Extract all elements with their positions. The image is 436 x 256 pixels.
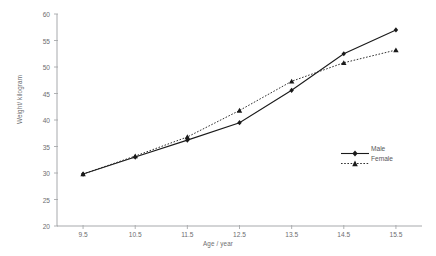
x-axis-tick-label: 15.5 [390, 231, 403, 238]
legend-label-male: Male [371, 145, 385, 152]
data-point-male [237, 120, 241, 125]
y-axis-tick-label: 20 [22, 223, 50, 230]
x-axis-tick-label: 13.5 [285, 231, 298, 238]
x-axis-title: Age / year [0, 240, 436, 247]
weight-vs-age-line-chart: 605550454035302520 9.510.511.512.513.514… [0, 0, 436, 256]
data-point-male [342, 51, 346, 56]
x-axis-tick-label: 10.5 [129, 231, 142, 238]
data-point-male [289, 88, 293, 93]
plot-area [0, 0, 436, 256]
legend-label-female: Female [371, 155, 393, 162]
data-point-female [393, 47, 398, 52]
caption-strip [6, 250, 306, 256]
y-axis-tick-label: 30 [22, 170, 50, 177]
y-axis-tick-label: 60 [22, 11, 50, 18]
x-axis-tick-label: 14.5 [337, 231, 350, 238]
legend-item-female[interactable]: Female [340, 153, 393, 163]
chart-legend: Male Female [340, 143, 426, 168]
legend-swatch-female-icon [340, 154, 370, 163]
data-point-female [289, 79, 294, 84]
y-axis-title: Weight/ kilogram [16, 45, 23, 155]
x-axis-tick-label: 12.5 [233, 231, 246, 238]
y-axis-tick-label: 45 [22, 90, 50, 97]
y-axis-tick-label: 35 [22, 143, 50, 150]
data-point-female [237, 108, 242, 113]
y-axis-tick-label: 50 [22, 64, 50, 71]
data-point-male [133, 155, 137, 160]
legend-item-male[interactable]: Male [340, 143, 385, 153]
y-axis-tick-label: 25 [22, 196, 50, 203]
x-axis-tick-label: 11.5 [181, 231, 193, 238]
x-axis-tick-label: 9.5 [78, 231, 87, 238]
data-point-male [394, 27, 398, 32]
y-axis-tick-label: 40 [22, 117, 50, 124]
y-axis-tick-label: 55 [22, 37, 50, 44]
legend-swatch-male-icon [340, 144, 370, 153]
